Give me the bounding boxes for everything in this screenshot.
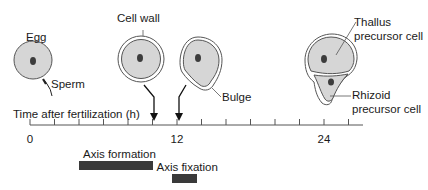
arrow-10h (144, 85, 158, 121)
bulge-leader (212, 88, 221, 97)
rhizoid-label-line1: Rhizoid (352, 89, 390, 102)
thallus-label-line1: Thallus (354, 16, 391, 29)
phase-bar (79, 161, 153, 170)
phase-label: Axis formation (83, 148, 156, 161)
egg-cell (14, 41, 52, 79)
walled-cell (118, 30, 164, 82)
two-cell-embryo (305, 22, 357, 105)
egg-label: Egg (26, 31, 46, 44)
phase-label: Axis fixation (157, 161, 218, 174)
phase-bar (172, 174, 197, 183)
axis-title: Time after fertilization (h) (13, 108, 140, 121)
egg-nucleus (30, 57, 36, 65)
tick-label: 12 (171, 133, 184, 146)
sperm-label: Sperm (51, 78, 85, 91)
nucleus (195, 54, 201, 62)
arrow-12h (175, 85, 186, 121)
nucleus (137, 54, 143, 62)
rhizoid-label-line2: precursor cell (352, 103, 421, 116)
bulge-label: Bulge (222, 91, 251, 104)
bulge-cell (180, 37, 222, 97)
tick-label: 24 (318, 133, 331, 146)
thallus-label-line2: precursor cell (354, 30, 423, 43)
cell-wall-label: Cell wall (117, 12, 160, 25)
rhizoid-nucleus (328, 79, 334, 86)
tick-label: 0 (27, 133, 33, 146)
thallus-nucleus (321, 55, 327, 63)
